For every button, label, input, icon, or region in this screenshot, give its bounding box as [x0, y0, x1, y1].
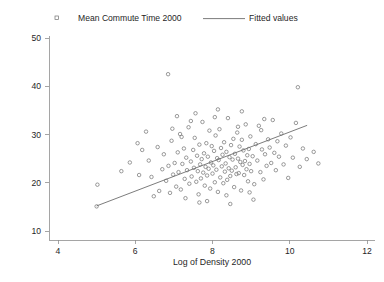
scatter-point: [182, 147, 186, 151]
scatter-point: [199, 177, 203, 181]
scatter-point: [179, 188, 183, 192]
scatter-point: [234, 166, 238, 170]
scatter-point: [215, 168, 219, 172]
scatter-point: [231, 158, 235, 162]
scatter-point: [243, 159, 247, 163]
scatter-point: [227, 167, 231, 171]
scatter-point: [262, 178, 266, 182]
scatter-point: [120, 169, 124, 173]
scatter-point: [222, 140, 226, 144]
scatter-point: [291, 156, 295, 160]
scatter-point: [177, 170, 181, 174]
scatter-point: [230, 169, 234, 173]
scatter-point: [271, 118, 275, 122]
scatter-point: [157, 189, 161, 193]
scatter-point: [263, 153, 267, 157]
x-tick-label: 4: [56, 246, 61, 256]
scatter-point: [175, 114, 179, 118]
scatter-point: [236, 157, 240, 161]
scatter-point: [284, 144, 288, 148]
scatter-point: [184, 156, 188, 160]
y-tick-label: 50: [31, 33, 41, 43]
scatter-point: [147, 159, 151, 163]
scatter-point: [173, 161, 177, 165]
scatter-point: [213, 115, 217, 119]
y-axis-ticks: 1020304050: [31, 33, 49, 236]
scatter-point: [301, 147, 305, 151]
scatter-point: [202, 152, 206, 156]
scatter-point: [216, 190, 220, 194]
x-axis-title: Log of Density 2000: [173, 257, 251, 267]
scatter-point: [259, 128, 263, 132]
scatter-point: [249, 169, 253, 173]
scatter-point: [152, 195, 156, 199]
y-tick-label: 40: [31, 81, 41, 91]
x-tick-label: 6: [133, 246, 138, 256]
scatter-point: [298, 165, 302, 169]
scatter-point: [167, 164, 171, 168]
scatter-point: [286, 176, 290, 180]
scatter-point: [205, 199, 209, 203]
scatter-point: [195, 180, 199, 184]
scatter-point: [206, 155, 210, 159]
scatter-point: [240, 138, 244, 142]
scatter-point: [263, 117, 267, 121]
scatter-point: [236, 125, 240, 129]
x-axis-ticks: 4681012: [56, 240, 372, 256]
scatter-point: [213, 181, 217, 185]
scatter-point: [96, 183, 100, 187]
scatter-point: [274, 168, 278, 172]
scatter-point: [252, 198, 256, 202]
legend-label-fitted: Fitted values: [249, 13, 298, 23]
scatter-point: [296, 85, 300, 89]
scatter-point: [201, 171, 205, 175]
scatter-point: [208, 129, 212, 133]
scatter-point: [225, 150, 229, 154]
scatter-point: [203, 184, 207, 188]
scatter-point: [176, 151, 180, 155]
scatter-point: [269, 161, 273, 165]
scatter-point: [277, 155, 281, 159]
scatter-point: [191, 148, 195, 152]
scatter-point: [198, 143, 202, 147]
scatter-point: [268, 146, 272, 150]
scatter-point: [219, 146, 223, 150]
scatter-point: [222, 181, 226, 185]
scatter-point: [156, 145, 160, 149]
scatter-point: [212, 149, 216, 153]
scatter-point: [170, 139, 174, 143]
chart-axes: [49, 36, 375, 240]
scatter-point: [189, 160, 193, 164]
scatter-point: [161, 167, 165, 171]
scatter-point: [195, 154, 199, 158]
scatter-point: [200, 157, 204, 161]
scatter-point: [194, 112, 198, 116]
scatter-point: [205, 174, 209, 178]
scatter-point: [246, 180, 250, 184]
scatter-point: [212, 164, 216, 168]
scatter-point: [207, 167, 211, 171]
scatter-point: [208, 187, 212, 191]
scatter-point: [245, 167, 249, 171]
scatter-point: [238, 145, 242, 149]
scatter-point: [256, 159, 260, 163]
scatter-point: [221, 153, 225, 157]
scatter-point: [240, 110, 244, 114]
scatter-point: [248, 162, 252, 166]
scatter-point: [174, 185, 178, 189]
scatter-point: [249, 135, 253, 139]
scatter-point: [183, 177, 187, 181]
scatter-point: [225, 178, 229, 182]
scatter-point: [232, 137, 236, 141]
scatter-point: [198, 201, 202, 205]
scatter-point: [197, 193, 201, 197]
scatter-point: [216, 108, 220, 112]
scatter-point: [181, 162, 185, 166]
scatter-point: [220, 165, 224, 169]
scatter-point: [144, 130, 148, 134]
scatter-point: [294, 121, 298, 125]
scatter-point: [232, 185, 236, 189]
scatter-point: [317, 162, 321, 166]
scatter-point: [260, 148, 264, 152]
scatter-point: [225, 194, 229, 198]
